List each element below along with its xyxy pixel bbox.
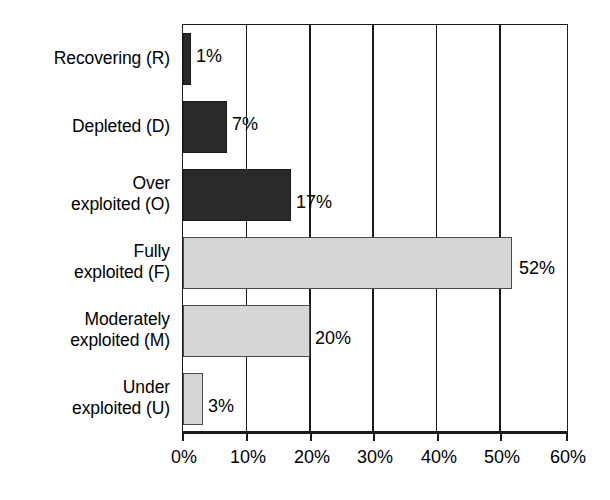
bar-under-exploited[interactable] (183, 373, 203, 425)
x-tick-label-20: 20% (294, 446, 330, 468)
x-tick-label-0: 0% (171, 446, 197, 468)
category-label-recovering: Recovering (R) (0, 24, 176, 92)
x-tick-10 (246, 432, 248, 441)
x-tick-label-50: 50% (484, 446, 520, 468)
x-tick-label-30: 30% (357, 446, 393, 468)
x-tick-30 (373, 432, 375, 441)
bar-moderately-exploited[interactable] (183, 305, 310, 357)
x-tick-label-60: 60% (550, 446, 586, 468)
value-label-over-exploited: 17% (296, 192, 332, 212)
value-label-depleted: 7% (232, 114, 258, 134)
bar-chart: Recovering (R) Depleted (D) Over exploit… (0, 0, 610, 500)
x-tick-50 (500, 432, 502, 441)
category-label-fully-exploited: Fully exploited (F) (0, 228, 176, 296)
bar-fully-exploited[interactable] (183, 237, 512, 289)
value-label-fully-exploited: 52% (519, 258, 555, 278)
bar-row-under-exploited (183, 365, 567, 433)
x-tick-20 (310, 432, 312, 441)
category-label-depleted: Depleted (D) (0, 92, 176, 160)
bar-depleted[interactable] (183, 101, 227, 153)
category-label-moderately-exploited: Moderately exploited (M) (0, 296, 176, 364)
value-label-moderately-exploited: 20% (315, 328, 351, 348)
value-label-under-exploited: 3% (208, 396, 234, 416)
category-label-under-exploited: Under exploited (U) (0, 364, 176, 432)
x-tick-label-40: 40% (421, 446, 457, 468)
bar-row-over-exploited (183, 161, 567, 229)
x-tick-0 (182, 432, 184, 441)
x-tick-label-10: 10% (230, 446, 266, 468)
bar-over-exploited[interactable] (183, 169, 291, 221)
category-label-over-exploited: Over exploited (O) (0, 160, 176, 228)
bar-row-recovering (183, 25, 567, 93)
bar-recovering[interactable] (183, 33, 191, 85)
x-tick-60 (566, 432, 568, 441)
x-tick-40 (437, 432, 439, 441)
bar-row-fully-exploited (183, 229, 567, 297)
plot-area (182, 24, 568, 432)
value-label-recovering: 1% (196, 46, 222, 66)
category-axis-labels: Recovering (R) Depleted (D) Over exploit… (0, 24, 176, 432)
bar-row-moderately-exploited (183, 297, 567, 365)
x-axis-line (182, 432, 568, 434)
